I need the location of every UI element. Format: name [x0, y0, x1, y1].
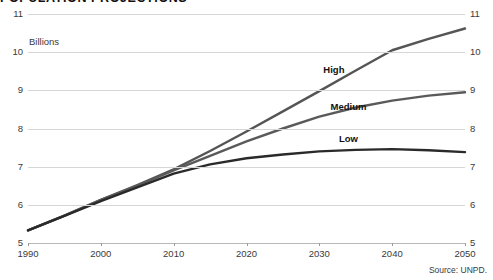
- y-axis-tick-right-11: 11: [470, 9, 480, 19]
- x-axis-tickmark-2010: [174, 243, 175, 246]
- x-axis-tick-2030: 2030: [309, 248, 330, 259]
- y-axis-tick-left-11: 11: [13, 9, 23, 19]
- y-axis-tick-right-6: 6: [470, 200, 475, 210]
- y-axis-tick-left-8: 8: [18, 124, 23, 134]
- plot-area: Billions 1111101099887766551990200020102…: [28, 14, 465, 243]
- y-axis-tick-right-5: 5: [470, 238, 475, 248]
- x-axis-tick-2010: 2010: [163, 248, 184, 259]
- x-axis-tickmark-2040: [392, 243, 393, 246]
- x-axis-tick-2000: 2000: [90, 248, 111, 259]
- y-axis-tick-left-9: 9: [18, 85, 23, 95]
- gridline-11: [28, 14, 465, 15]
- y-axis-tick-left-5: 5: [18, 238, 23, 248]
- x-axis-tickmark-2050: [465, 243, 466, 246]
- x-axis-tick-2050: 2050: [454, 248, 475, 259]
- y-axis-tick-left-10: 10: [12, 47, 23, 57]
- series-label-low: Low: [339, 133, 358, 144]
- y-axis-tick-right-7: 7: [470, 162, 475, 172]
- chart-page: POPULATION PROJECTIONS Billions 11111010…: [0, 0, 493, 280]
- x-axis-tickmark-1990: [28, 243, 29, 246]
- y-axis-tick-left-7: 7: [18, 162, 23, 172]
- gridline-7: [28, 167, 465, 168]
- series-line-low: [28, 149, 465, 230]
- page-title: POPULATION PROJECTIONS: [0, 0, 187, 5]
- y-axis-tick-right-8: 8: [470, 124, 475, 134]
- series-label-high: High: [323, 64, 344, 75]
- y-axis-tick-right-9: 9: [470, 85, 475, 95]
- series-label-medium: Medium: [331, 100, 367, 111]
- x-axis-tickmark-2000: [101, 243, 102, 246]
- series-line-medium: [28, 92, 465, 230]
- x-axis-tickmark-2020: [247, 243, 248, 246]
- gridline-9: [28, 90, 465, 91]
- gridline-8: [28, 129, 465, 130]
- source-note: Source: UNPD.: [429, 265, 487, 275]
- x-axis-tickmark-2030: [319, 243, 320, 246]
- x-axis-tick-2020: 2020: [236, 248, 257, 259]
- gridline-6: [28, 205, 465, 206]
- y-axis-tick-right-10: 10: [470, 47, 481, 57]
- y-axis-tick-left-6: 6: [18, 200, 23, 210]
- x-axis-tick-1990: 1990: [17, 248, 38, 259]
- x-axis-tick-2040: 2040: [382, 248, 403, 259]
- gridline-10: [28, 52, 465, 53]
